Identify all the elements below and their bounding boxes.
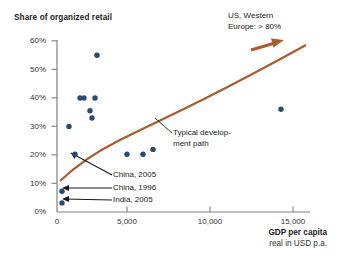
data-point [89, 115, 94, 120]
x-tick-label-10000: 10,000 [190, 217, 230, 226]
data-point [278, 107, 283, 112]
data-point [94, 53, 99, 58]
china-1996-label: China, 1996 [113, 183, 156, 194]
data-point [92, 95, 97, 100]
y-tick-label-10: 10% [20, 179, 46, 188]
typical-development-path-label: Typical develop- ment path [173, 128, 231, 149]
data-point-china-2005 [72, 152, 77, 157]
x-tick-label-15000: 15,000 [273, 217, 313, 226]
typical-path-line2: ment path [173, 139, 231, 150]
x-tick-marks [127, 207, 293, 213]
y-tick-label-0: 0% [20, 207, 46, 216]
y-tick-label-20: 20% [20, 150, 46, 159]
data-point [150, 147, 155, 152]
typical-path-leader-line [155, 118, 172, 133]
chart-container: Share of organized retail US, Western Eu… [0, 0, 339, 262]
y-tick-label-60: 60% [20, 36, 46, 45]
x-tick-label-0: 0 [37, 217, 77, 226]
y-tick-label-30: 30% [20, 122, 46, 131]
data-point-china-1996 [59, 189, 64, 194]
y-tick-label-40: 40% [20, 93, 46, 102]
data-point [140, 152, 145, 157]
data-point [66, 124, 71, 129]
x-axis-subtitle: real in USD p.a. [269, 239, 327, 248]
y-tick-marks [52, 41, 58, 184]
growth-arrow-icon [251, 39, 284, 51]
data-point [87, 108, 92, 113]
x-tick-label-5000: 5,000 [107, 217, 147, 226]
data-point [81, 95, 86, 100]
typical-path-line1: Typical develop- [173, 128, 231, 139]
india-2005-leader-line [64, 199, 112, 200]
development-path-curve [60, 45, 306, 181]
y-tick-label-50: 50% [20, 65, 46, 74]
data-point [124, 152, 129, 157]
china-2005-label: China, 2005 [113, 170, 156, 181]
data-point-india-2005 [59, 200, 64, 205]
x-axis-title: GDP per capita [268, 228, 327, 237]
india-2005-label: India, 2005 [113, 195, 153, 206]
